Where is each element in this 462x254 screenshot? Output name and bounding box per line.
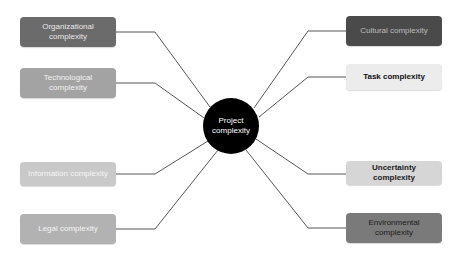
node-legal-complexity: Legal complexity: [20, 214, 116, 244]
node-label-line2: complexity: [368, 228, 419, 238]
node-label-line1: Cultural complexity: [360, 26, 428, 36]
node-label-line1: Environmental: [368, 218, 419, 228]
node-label-line1: Technological: [44, 73, 92, 83]
node-cultural-complexity: Cultural complexity: [346, 16, 442, 46]
node-label-line1: Organizational: [42, 22, 94, 32]
connector-legal: [116, 150, 218, 229]
node-environmental-complexity: Environmentalcomplexity: [346, 213, 442, 243]
node-label-line1: Task complexity: [363, 72, 425, 82]
connector-organizational: [116, 32, 210, 107]
project-complexity-diagram: Project complexity Organizationalcomplex…: [0, 0, 462, 254]
center-node-project-complexity: Project complexity: [203, 98, 259, 154]
node-information-complexity: Information complexity: [20, 162, 116, 186]
center-label-line1: Project: [212, 116, 250, 126]
connector-information: [116, 141, 208, 174]
connector-uncertainty: [256, 139, 346, 174]
node-organizational-complexity: Organizationalcomplexity: [20, 17, 116, 47]
node-label-line1: Uncertainty complexity: [350, 163, 438, 183]
node-label-line1: Legal complexity: [38, 224, 98, 234]
center-label-line2: complexity: [212, 126, 250, 136]
node-uncertainty-complexity: Uncertainty complexity: [346, 161, 442, 185]
node-task-complexity: Task complexity: [346, 64, 442, 90]
connector-technological: [116, 83, 204, 118]
node-technological-complexity: Technologicalcomplexity: [20, 68, 116, 98]
node-label-line2: complexity: [44, 83, 92, 93]
node-label-line1: Information complexity: [28, 169, 108, 179]
connector-cultural: [254, 31, 346, 108]
node-label-line2: complexity: [42, 32, 94, 42]
connector-environmental: [246, 150, 346, 228]
